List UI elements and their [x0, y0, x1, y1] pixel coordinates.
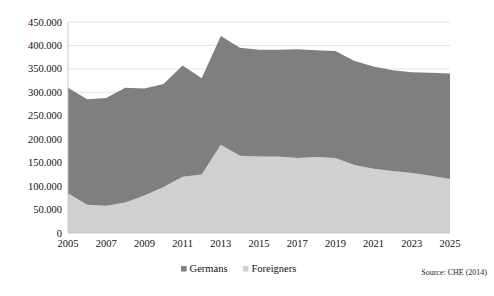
- legend-swatch-foreigners: [243, 266, 249, 272]
- legend-label-germans: Germans: [190, 263, 228, 274]
- y-axis-tick-label: 100.000: [28, 181, 62, 192]
- chart-canvas: 050.000100.000150.000200.000250.000300.0…: [0, 0, 494, 296]
- y-axis-tick-label: 50.000: [33, 204, 62, 215]
- source-note: Source: CHE (2014): [421, 268, 487, 277]
- legend-label-foreigners: Foreigners: [251, 263, 296, 274]
- y-axis-tick-label: 450.000: [28, 17, 62, 28]
- x-axis-tick-label: 2021: [363, 238, 384, 249]
- y-axis-tick-label: 300.000: [28, 87, 62, 98]
- chart-legend: GermansForeigners: [181, 263, 296, 274]
- y-axis-tick-label: 150.000: [28, 157, 62, 168]
- x-axis-tick-label: 2019: [325, 238, 346, 249]
- y-axis-tick-label: 0: [57, 228, 62, 239]
- y-axis-tick-label: 200.000: [28, 134, 62, 145]
- x-axis-tick-label: 2023: [401, 238, 422, 249]
- y-axis-tick-label: 350.000: [28, 63, 62, 74]
- x-axis-tick-label: 2007: [96, 238, 117, 249]
- x-axis-tick-label: 2025: [440, 238, 461, 249]
- x-axis-tick-label: 2013: [210, 238, 231, 249]
- y-axis-tick-label: 250.000: [28, 110, 62, 121]
- x-axis-tick-label: 2009: [134, 238, 155, 249]
- x-axis-tick-label: 2011: [172, 238, 193, 249]
- legend-swatch-germans: [181, 266, 187, 272]
- y-axis-tick-label: 400.000: [28, 40, 62, 51]
- x-axis-tick-label: 2017: [287, 238, 308, 249]
- x-axis-tick-labels: 2005200720092011201320152017201920212023…: [58, 238, 461, 249]
- y-axis-tick-labels: 050.000100.000150.000200.000250.000300.0…: [28, 17, 62, 239]
- x-axis-tick-label: 2005: [58, 238, 79, 249]
- x-axis-tick-label: 2015: [249, 238, 270, 249]
- stacked-area-chart-figure: 050.000100.000150.000200.000250.000300.0…: [0, 0, 494, 296]
